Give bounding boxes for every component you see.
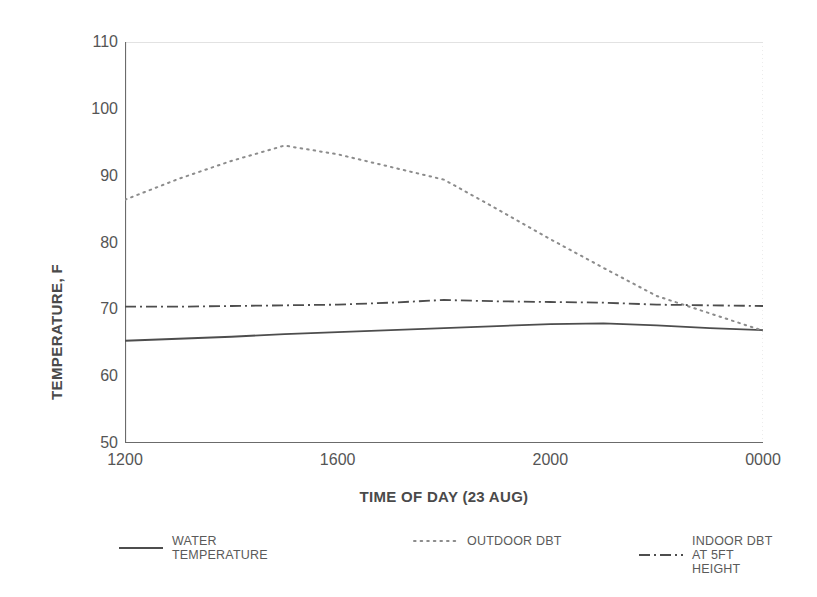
y-tick-label: 70 [74,301,118,317]
y-tick-label: 90 [74,168,118,184]
y-tick-label: 110 [74,34,118,50]
series-line-2 [125,300,763,317]
y-tick-label: 100 [74,101,118,117]
x-tick-label: 0000 [728,452,798,468]
y-axis-title: TEMPERATURE, F [48,150,65,400]
legend-line-sample [118,541,164,555]
y-tick-label: 60 [74,368,118,384]
x-axis-tick-labels: 1200160020000000040008001200 [125,452,763,476]
chart-legend: WATER TEMPERATUREOUTDOOR DBTINDOOR DBT A… [118,534,778,582]
legend-label: WATER TEMPERATURE [172,534,268,562]
x-tick-label: 1200 [90,452,160,468]
legend-label: INDOOR DBT AT 5FT HEIGHT [692,534,778,576]
legend-label: OUTDOOR DBT [467,534,562,548]
legend-entry: OUTDOOR DBT [413,534,562,548]
chart-figure: TEMPERATURE, F 1101009080706050 12001600… [0,0,817,597]
x-tick-label: 1600 [303,452,373,468]
legend-line-sample [413,534,459,548]
series-line-1 [125,146,763,409]
y-tick-label: 50 [74,435,118,451]
y-axis-tick-labels: 1101009080706050 [66,42,118,443]
series-line-0 [125,323,763,340]
legend-entry: INDOOR DBT AT 5FT HEIGHT [638,534,778,576]
legend-entry: WATER TEMPERATURE [118,534,268,562]
y-tick-label: 80 [74,235,118,251]
plot-svg [125,42,763,443]
plot-area [125,42,763,443]
legend-line-sample [638,548,684,562]
x-axis-title: TIME OF DAY (23 AUG) [125,488,763,505]
x-tick-label: 2000 [515,452,585,468]
